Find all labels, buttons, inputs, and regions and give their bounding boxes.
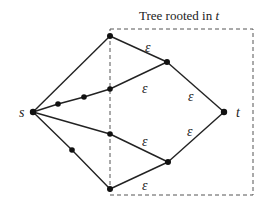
node-t <box>221 109 227 115</box>
epsilon-label: ε <box>188 89 194 104</box>
label-t: t <box>236 105 241 120</box>
nodes <box>30 33 227 192</box>
epsilon-label: ε <box>145 40 151 55</box>
box-title: Tree rooted in t <box>139 8 219 23</box>
node-upper-right <box>164 59 170 65</box>
edge-lower-right-t <box>168 112 224 162</box>
epsilon-label: ε <box>142 178 148 193</box>
node-mid1 <box>55 101 61 107</box>
node-s <box>30 109 36 115</box>
tree-box <box>110 29 253 195</box>
node-mid3 <box>107 86 113 92</box>
node-lower-right <box>165 159 171 165</box>
edge-upper-right-t <box>167 62 224 112</box>
edge-bottom-lower-right <box>110 162 168 189</box>
node-low-mid <box>107 131 113 137</box>
node-bottom <box>107 186 113 192</box>
label-s: s <box>19 105 25 120</box>
node-top <box>107 33 113 39</box>
edges <box>33 36 224 189</box>
epsilon-label: ε <box>142 81 148 96</box>
edge-low-mid-lower-right <box>110 134 168 162</box>
edge-top-upper-right <box>110 36 167 62</box>
epsilon-label: ε <box>187 124 193 139</box>
node-low-left <box>69 147 75 153</box>
tree-diagram: Tree rooted in t s t ε ε ε ε ε ε <box>0 0 269 208</box>
epsilon-label: ε <box>142 134 148 149</box>
node-mid2 <box>81 94 87 100</box>
